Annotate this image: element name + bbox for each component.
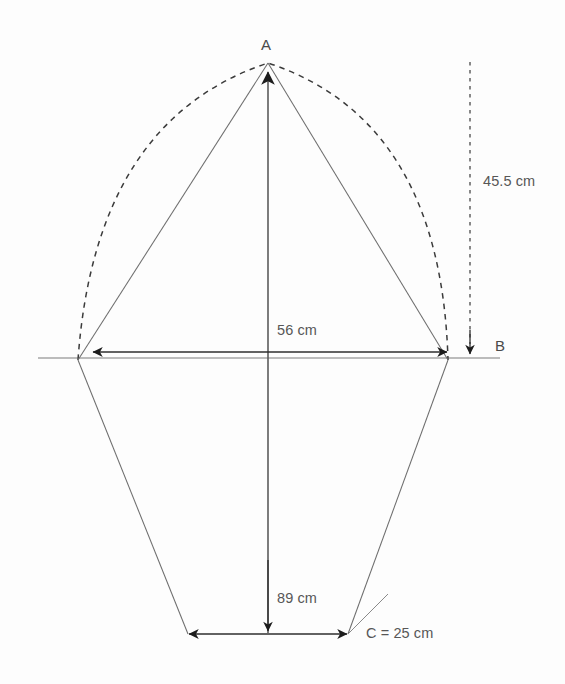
baseline-label-b: B — [495, 338, 505, 353]
width-dimension-label: 56 cm — [277, 323, 317, 338]
triangle-left-edge — [78, 63, 268, 360]
trapezoid-right-edge — [348, 360, 448, 634]
dashed-arc-curve — [78, 63, 448, 360]
height-dimension-label: 45.5 cm — [483, 174, 535, 189]
triangle-right-edge — [268, 63, 448, 360]
diagram-svg — [0, 0, 565, 684]
bottom-width-dimension-label: C = 25 cm — [366, 626, 433, 641]
apex-label-a: A — [261, 37, 271, 52]
depth-dimension-label: 89 cm — [277, 591, 317, 606]
diagram-canvas: A B 56 cm 45.5 cm 89 cm C = 25 cm — [0, 0, 565, 684]
trapezoid-left-edge — [78, 360, 188, 634]
